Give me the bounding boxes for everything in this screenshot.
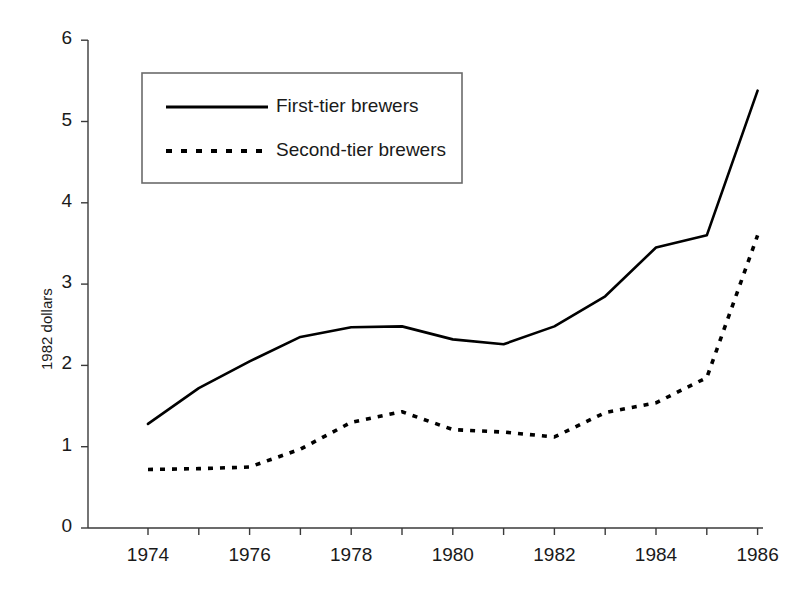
x-axis: [88, 528, 763, 535]
x-tick-label: 1976: [210, 544, 290, 566]
y-axis: [81, 40, 88, 528]
x-tick-label: 1986: [718, 544, 798, 566]
legend-label-1: First-tier brewers: [276, 95, 419, 117]
x-tick-label: 1982: [514, 544, 594, 566]
x-tick-label: 1978: [311, 544, 391, 566]
chart-figure: 1982 dollars 012345619741976197819801982…: [0, 0, 801, 593]
series-line-2: [148, 235, 758, 469]
y-tick-label: 0: [42, 515, 72, 537]
legend-label-2: Second-tier brewers: [276, 139, 446, 161]
x-tick-label: 1984: [616, 544, 696, 566]
y-tick-label: 4: [42, 190, 72, 212]
y-tick-label: 2: [42, 352, 72, 374]
x-tick-label: 1980: [413, 544, 493, 566]
y-tick-label: 3: [42, 271, 72, 293]
chart-plot-area: [0, 0, 801, 593]
y-tick-label: 5: [42, 109, 72, 131]
legend-box: [142, 73, 462, 183]
y-tick-label: 6: [42, 27, 72, 49]
y-tick-label: 1: [42, 434, 72, 456]
x-tick-label: 1974: [108, 544, 188, 566]
